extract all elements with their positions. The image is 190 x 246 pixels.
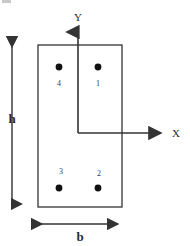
- x-axis-label: X: [172, 128, 180, 139]
- rebar-dot: [95, 185, 102, 192]
- cross-section-rectangle: [38, 45, 122, 207]
- rebar-label-2: 2: [97, 170, 101, 178]
- rebar-label-1: 1: [96, 80, 100, 88]
- height-dimension-label: h: [8, 112, 15, 125]
- rebar-dot: [95, 64, 102, 71]
- rebar-dot: [56, 185, 63, 192]
- figure-canvas: Y X h b 1 2 3 4: [0, 0, 190, 246]
- rebar-label-3: 3: [59, 168, 63, 176]
- y-axis-label: Y: [74, 12, 82, 23]
- rebar-label-4: 4: [57, 80, 61, 88]
- diagram-vector-layer: [0, 0, 190, 246]
- rebar-dot: [56, 64, 63, 71]
- width-dimension-label: b: [76, 230, 83, 243]
